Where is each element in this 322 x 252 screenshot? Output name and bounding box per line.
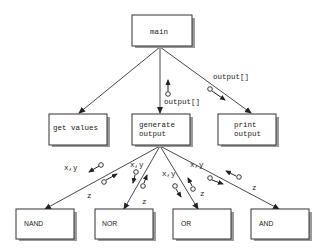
module-main: main (132, 15, 195, 48)
module-label-generate: generate (139, 121, 175, 129)
couple-label-or-z: z (200, 190, 205, 198)
edge-main-get-values (79, 47, 160, 113)
module-nand: NAND (16, 209, 77, 241)
module-and: AND (251, 209, 312, 241)
module-label-main: main (150, 28, 168, 36)
data-couple-circle-icon (99, 163, 104, 168)
data-couple-circle-icon (208, 176, 213, 181)
module-nor: NOR (95, 209, 156, 241)
module-generate-output: generate output (132, 114, 193, 147)
couple-label-or-xy: x,y (162, 170, 176, 178)
module-get-values: get values (49, 114, 110, 147)
data-couple-circle-icon (134, 170, 139, 175)
module-label-nand: NAND (24, 220, 43, 227)
edge-generate-and (160, 146, 279, 209)
couple-label-output-print: output[] (213, 73, 249, 81)
module-or: OR (173, 209, 234, 241)
couple-label-nand-z: z (87, 192, 92, 200)
couple-label-nand-xy: x,y (64, 164, 78, 172)
structure-chart-diagram: output[] output[] x,y z x,y z (0, 0, 322, 252)
couple-and: x,y z (190, 161, 257, 192)
data-couple-circle-icon (173, 184, 178, 189)
module-label-get-values: get values (53, 124, 98, 132)
couple-label-nor-z: z (142, 198, 147, 206)
data-couple-circle-icon (141, 184, 146, 189)
couple-label-and-xy: x,y (190, 161, 204, 169)
data-couple-circle-icon (208, 87, 213, 92)
data-couple-circle-icon (191, 187, 196, 192)
couple-output-from-generate: output[] (164, 80, 200, 106)
data-couple-circle-icon (166, 92, 171, 97)
data-couple-circle-icon (237, 175, 242, 180)
data-couple-circle-icon (102, 180, 107, 185)
module-label-and: AND (259, 220, 273, 227)
module-label-print-output: output (234, 130, 261, 138)
module-label-or: OR (181, 220, 191, 227)
module-label-print: print (234, 121, 257, 129)
module-print-output: print output (218, 114, 279, 147)
module-label-generate-output: output (139, 130, 166, 138)
module-label-nor: NOR (102, 220, 117, 227)
couple-label-nor-xy: x,y (130, 161, 144, 169)
couple-label-output-generate: output[] (164, 98, 200, 106)
couple-label-and-z: z (252, 184, 257, 192)
